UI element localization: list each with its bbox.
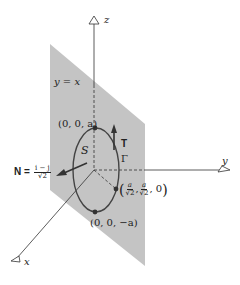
point-side	[114, 187, 119, 192]
normal-label: N = i − j √2	[14, 165, 52, 180]
point-top-label: (0, 0, a)	[58, 119, 97, 129]
plane-label: y = x	[54, 77, 80, 87]
tangent-label: T	[121, 139, 127, 149]
y-axis-label: y	[222, 156, 228, 166]
point-bottom-label: (0, 0, −a)	[90, 218, 138, 228]
normal-eq: N =	[14, 166, 30, 177]
point-bottom	[93, 210, 98, 215]
point-side-label: (a√2,a√2, 0)	[119, 182, 168, 197]
surface-label: S	[81, 145, 89, 156]
z-axis-label: z	[104, 15, 109, 25]
diagram-canvas	[0, 0, 240, 285]
z-axis-arrow-icon	[89, 16, 99, 24]
normal-fraction: i − j √2	[34, 165, 51, 180]
x-axis-arrow-icon	[11, 256, 20, 262]
y-axis-arrow-icon	[218, 166, 230, 172]
curve-label: Γ	[121, 154, 128, 164]
x-axis-label: x	[24, 257, 30, 267]
